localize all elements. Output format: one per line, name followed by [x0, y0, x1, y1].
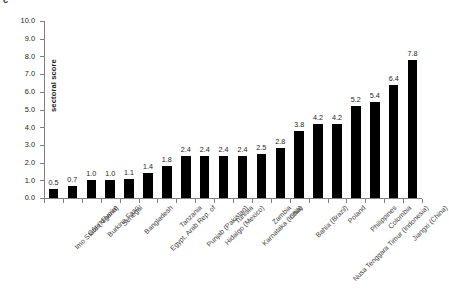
y-axis-line — [44, 21, 45, 198]
bar — [68, 186, 78, 198]
bar — [105, 180, 115, 198]
y-tick — [40, 110, 44, 111]
bar-value-label: 2.8 — [266, 138, 294, 145]
bar — [332, 124, 342, 198]
y-tick-label: 5.0 — [25, 106, 35, 113]
x-tick — [63, 199, 64, 203]
y-tick-label: 6.0 — [25, 88, 35, 95]
bar-value-label: 4.2 — [323, 114, 351, 121]
x-tick — [384, 199, 385, 203]
bar — [181, 156, 191, 198]
bar — [408, 60, 418, 198]
x-tick — [328, 199, 329, 203]
y-axis-title: sectoral score — [49, 41, 58, 131]
x-tick — [252, 199, 253, 203]
x-tick — [271, 199, 272, 203]
bar — [124, 179, 134, 198]
bar — [389, 85, 399, 198]
y-tick-label: 0.0 — [25, 194, 35, 201]
y-tick — [40, 163, 44, 164]
x-tick — [176, 199, 177, 203]
x-tick — [44, 199, 45, 203]
bar — [313, 124, 323, 198]
bar — [257, 154, 267, 198]
bar-value-label: 6.4 — [380, 75, 408, 82]
bar-value-label: 3.8 — [285, 121, 313, 128]
bar — [162, 166, 172, 198]
bar-value-label: 7.8 — [399, 50, 427, 57]
x-tick — [403, 199, 404, 203]
y-tick-label: 2.0 — [25, 159, 35, 166]
y-tick — [40, 56, 44, 57]
y-tick — [40, 127, 44, 128]
y-tick-label: 4.0 — [25, 124, 35, 131]
x-tick — [290, 199, 291, 203]
bar-value-label: 1.4 — [134, 163, 162, 170]
x-tick — [233, 199, 234, 203]
x-tick — [309, 199, 310, 203]
y-tick-label: 1.0 — [25, 177, 35, 184]
x-tick — [365, 199, 366, 203]
y-tick — [40, 74, 44, 75]
x-tick — [422, 199, 423, 203]
x-tick — [214, 199, 215, 203]
bar — [200, 156, 210, 198]
bar — [219, 156, 229, 198]
y-tick-label: 7.0 — [25, 70, 35, 77]
x-tick — [82, 199, 83, 203]
bar-value-label: 1.8 — [153, 156, 181, 163]
y-tick-label: 8.0 — [25, 53, 35, 60]
bar — [351, 106, 361, 198]
x-axis-label: Bahia (Brazil) — [314, 204, 349, 239]
x-tick — [346, 199, 347, 203]
y-tick-label: 9.0 — [25, 35, 35, 42]
plot-area: sectoral score 10.09.08.07.06.05.04.03.0… — [44, 21, 422, 198]
y-tick — [40, 39, 44, 40]
x-tick — [120, 199, 121, 203]
bar — [238, 156, 248, 198]
bar — [370, 102, 380, 198]
x-axis-label: Poland — [346, 204, 367, 225]
y-tick — [40, 21, 44, 22]
bar — [87, 180, 97, 198]
x-axis-label: Bangladesh — [143, 204, 175, 236]
bar — [276, 148, 286, 198]
bar — [294, 131, 304, 198]
y-tick-label: 10.0 — [21, 17, 35, 24]
y-tick — [40, 145, 44, 146]
bar — [49, 189, 59, 198]
x-tick — [101, 199, 102, 203]
y-tick-label: 3.0 — [25, 141, 35, 148]
bar-value-label: 5.4 — [361, 92, 389, 99]
x-tick — [139, 199, 140, 203]
bar — [143, 173, 153, 198]
x-tick — [195, 199, 196, 203]
y-tick — [40, 92, 44, 93]
x-tick — [157, 199, 158, 203]
